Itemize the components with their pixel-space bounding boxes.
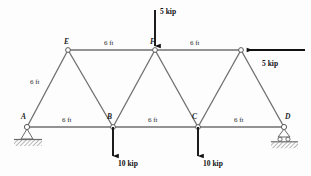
member-F-C: [155, 50, 198, 127]
load-arrows: [113, 10, 305, 156]
truss-members: [27, 50, 284, 127]
truss-diagram: A B C D E F 6 ft 6 ft 6 ft 6 ft 6 ft 6 f…: [0, 0, 311, 176]
member-B-F: [113, 50, 155, 127]
member-A-E: [27, 50, 68, 127]
member-E-B: [68, 50, 113, 127]
joint-G: [239, 48, 244, 53]
joint-E: [66, 48, 71, 53]
roller-support-D: [271, 129, 298, 148]
truss-svg: [0, 0, 311, 176]
member-C-G: [198, 50, 241, 127]
member-G-D: [241, 50, 284, 127]
pin-support-A: [14, 129, 42, 146]
joint-F: [153, 48, 158, 53]
